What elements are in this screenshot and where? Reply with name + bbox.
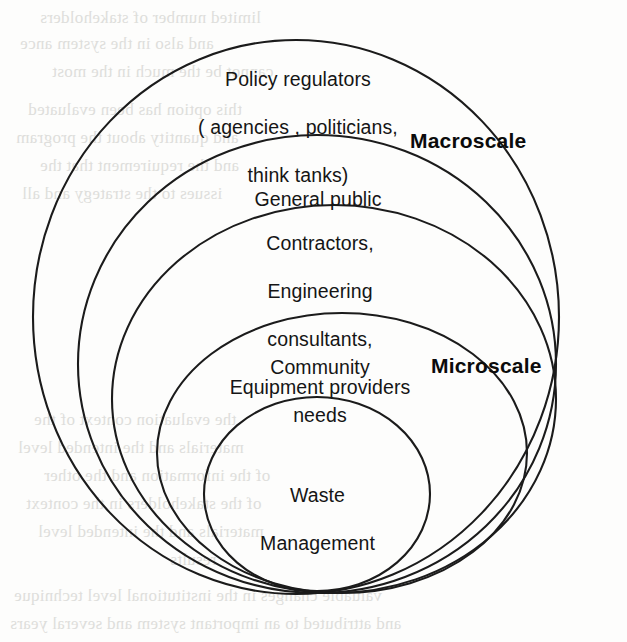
ring-label-waste-management: Waste Management bbox=[205, 459, 430, 579]
ring-label-line: Community bbox=[170, 355, 470, 379]
ring-label-line: Management bbox=[205, 531, 430, 555]
diagram-canvas: limited number of stakeholders and also … bbox=[0, 0, 627, 642]
annotation-macroscale: Macroscale bbox=[410, 129, 526, 153]
ring-label-community-needs: Community needs bbox=[170, 331, 470, 451]
diagram-labels-layer: Policy regulators ( agencies , politicia… bbox=[0, 0, 627, 642]
ring-label-line: needs bbox=[170, 403, 470, 427]
ring-label-line: Policy regulators bbox=[148, 67, 448, 91]
annotation-microscale: Microscale bbox=[431, 354, 542, 378]
ring-label-line: ( agencies , politicians, bbox=[148, 115, 448, 139]
ring-label-line: Contractors, bbox=[170, 231, 470, 255]
ring-label-line: Waste bbox=[205, 483, 430, 507]
ring-label-line: Engineering bbox=[170, 279, 470, 303]
